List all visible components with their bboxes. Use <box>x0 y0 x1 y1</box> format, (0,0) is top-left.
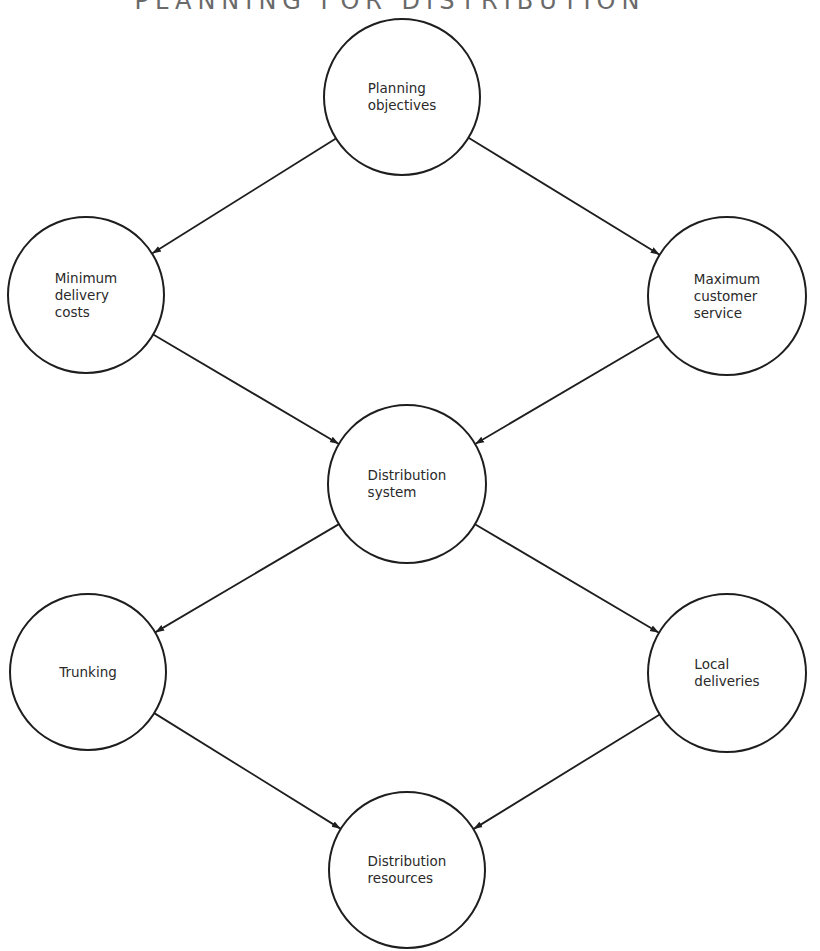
node-label-dist-resources: Distribution resources <box>368 853 447 887</box>
arrow-planning-to-min-cost <box>152 138 336 253</box>
node-label-min-cost: Minimum delivery costs <box>55 270 118 321</box>
node-label-local-deliveries: Local deliveries <box>694 656 759 690</box>
node-label-planning: Planning objectives <box>368 80 437 114</box>
arrow-dist-system-to-local-deliveries <box>475 524 659 633</box>
arrow-max-service-to-dist-system <box>475 336 659 444</box>
node-label-trunking: Trunking <box>59 664 117 681</box>
arrow-local-deliveries-to-dist-resources <box>473 714 659 829</box>
arrow-planning-to-max-service <box>469 138 660 255</box>
node-label-max-service: Maximum customer service <box>694 271 761 322</box>
arrow-dist-system-to-trunking <box>155 524 339 632</box>
node-label-dist-system: Distribution system <box>368 467 447 501</box>
arrow-trunking-to-dist-resources <box>154 713 340 829</box>
arrow-min-cost-to-dist-system <box>153 335 339 444</box>
